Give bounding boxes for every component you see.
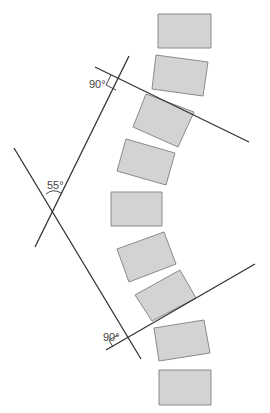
vertebra-7 (135, 270, 196, 321)
vertebra-1 (158, 14, 211, 48)
vertebra-8 (154, 320, 210, 361)
upper-angle-label: 90° (89, 78, 106, 90)
vertebra-5 (111, 192, 162, 226)
vertebra-3 (133, 94, 194, 147)
cobb-angle-arc (46, 191, 61, 194)
vertebra-6 (117, 232, 176, 282)
cobb-angle-diagram: 90° 55° 90° (0, 0, 270, 413)
vertebra-2 (152, 55, 208, 96)
vertebra-9 (159, 370, 211, 405)
cobb-angle-label: 55° (47, 179, 64, 191)
vertebra-4 (117, 139, 175, 185)
vertebrae (111, 14, 211, 405)
lower-angle-label: 90° (103, 331, 120, 343)
upper-right-angle-marker (106, 75, 116, 90)
